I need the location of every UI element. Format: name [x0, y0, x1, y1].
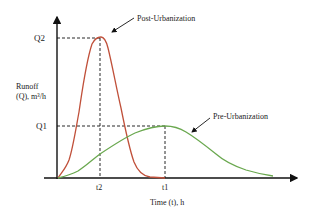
y-axis-label-line2: (Q), m³/h — [16, 92, 46, 101]
post-urbanization-pointer — [112, 18, 134, 32]
hydrograph-chart: Post-Urbanization Pre-Urbanization Q2 Q1… — [0, 0, 312, 217]
q2-tick-label: Q2 — [34, 33, 45, 43]
q1-tick-label: Q1 — [36, 121, 47, 131]
pre-urbanization-label: Pre-Urbanization — [213, 112, 268, 121]
post-urbanization-label: Post-Urbanization — [137, 14, 195, 23]
t2-tick-label: t2 — [96, 183, 102, 192]
t1-tick-label: t1 — [162, 183, 168, 192]
post-urbanization-curve — [58, 37, 165, 178]
x-axis-label: Time (t), h — [150, 198, 184, 207]
y-axis-label-line1: Runoff — [16, 82, 39, 91]
pre-urbanization-curve — [58, 126, 273, 178]
pre-urbanization-pointer — [192, 118, 210, 132]
